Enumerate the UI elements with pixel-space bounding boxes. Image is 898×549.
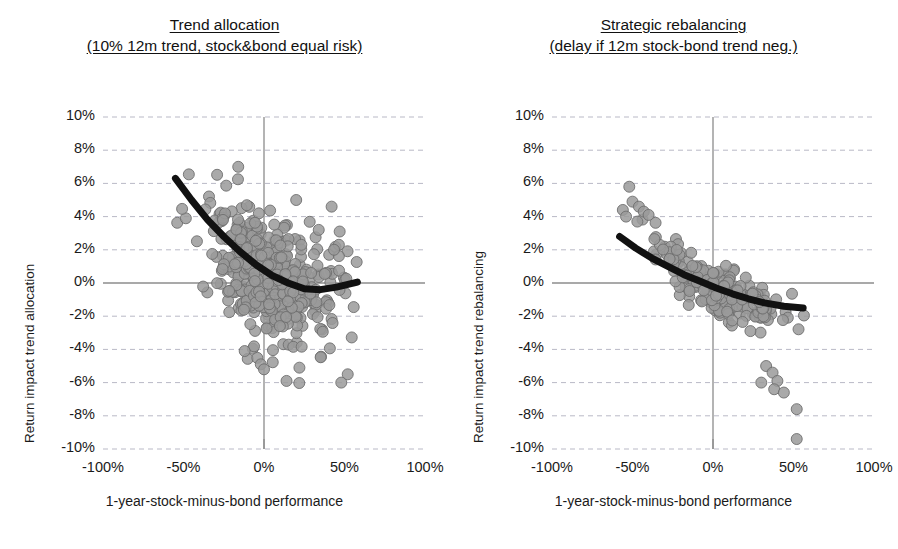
scatter-point bbox=[249, 276, 260, 287]
scatter-point bbox=[791, 404, 802, 415]
chart-panel-trend-allocation: Trend allocation (10% 12m trend, stock&b… bbox=[0, 0, 449, 549]
x-axis-tick-label: -50% bbox=[588, 459, 678, 475]
scatter-point bbox=[683, 299, 694, 310]
x-axis-tick-label: -100% bbox=[58, 459, 148, 475]
scatter-point bbox=[336, 377, 347, 388]
scatter-point bbox=[777, 315, 788, 326]
scatter-point bbox=[324, 300, 335, 311]
scatter-point bbox=[315, 352, 326, 363]
scatter-point bbox=[264, 299, 275, 310]
plot-area-left: 10%8%6%4%2%0%-2%-4%-6%-8%-10%-100%-50%0%… bbox=[0, 0, 449, 549]
x-axis-tick-label: 50% bbox=[749, 459, 839, 475]
scatter-point bbox=[291, 195, 302, 206]
scatter-point bbox=[793, 324, 804, 335]
y-axis-tick-label: -10% bbox=[30, 439, 95, 455]
scatter-point bbox=[327, 318, 338, 329]
scatter-point bbox=[255, 291, 266, 302]
scatter-point bbox=[217, 214, 228, 225]
y-axis-tick-label: 8% bbox=[30, 140, 95, 156]
x-axis-tick-label: -100% bbox=[507, 459, 597, 475]
scatter-point bbox=[238, 304, 249, 315]
y-axis-tick-label: 8% bbox=[479, 140, 544, 156]
y-axis-tick-label: 0% bbox=[30, 273, 95, 289]
scatter-point bbox=[241, 200, 252, 211]
scatter-point bbox=[643, 209, 654, 220]
scatter-point bbox=[269, 219, 280, 230]
y-axis-label: Return impact trend rebalancing bbox=[471, 251, 486, 443]
scatter-point bbox=[326, 201, 337, 212]
y-axis-tick-label: 6% bbox=[30, 173, 95, 189]
scatter-point bbox=[239, 346, 250, 357]
scatter-point bbox=[256, 250, 267, 261]
scatter-point bbox=[281, 375, 292, 386]
figure-root: Trend allocation (10% 12m trend, stock&b… bbox=[0, 0, 898, 549]
scatter-point bbox=[727, 315, 738, 326]
scatter-point bbox=[684, 285, 695, 296]
scatter-point bbox=[232, 174, 243, 185]
y-axis-tick-label: -4% bbox=[30, 339, 95, 355]
scatter-point bbox=[696, 296, 707, 307]
scatter-point bbox=[317, 326, 328, 337]
scatter-point bbox=[624, 181, 635, 192]
plot-area-right: 10%8%6%4%2%0%-2%-4%-6%-8%-10%-100%-50%0%… bbox=[449, 0, 898, 549]
y-axis-tick-label: -10% bbox=[479, 439, 544, 455]
scatter-point bbox=[351, 257, 362, 268]
y-axis-tick-label: 6% bbox=[479, 173, 544, 189]
scatter-point bbox=[798, 310, 809, 321]
y-axis-tick-label: -6% bbox=[479, 373, 544, 389]
scatter-point bbox=[198, 281, 209, 292]
scatter-point bbox=[304, 216, 315, 227]
scatter-point bbox=[346, 332, 357, 343]
scatter-point bbox=[212, 278, 223, 289]
scatter-point bbox=[755, 327, 766, 338]
scatter-point bbox=[671, 244, 682, 255]
x-axis-label: 1-year-stock-minus-bond performance bbox=[0, 493, 449, 509]
x-axis-tick-label: 100% bbox=[829, 459, 898, 475]
y-axis-tick-label: 4% bbox=[479, 207, 544, 223]
scatter-point bbox=[217, 264, 228, 275]
scatter-point bbox=[282, 296, 293, 307]
scatter-point bbox=[250, 235, 261, 246]
y-axis-tick-label: -2% bbox=[479, 306, 544, 322]
scatter-point bbox=[308, 249, 319, 260]
scatter-point bbox=[250, 217, 261, 228]
x-axis-label: 1-year-stock-minus-bond performance bbox=[449, 493, 898, 509]
scatter-point bbox=[787, 288, 798, 299]
y-axis-tick-label: 0% bbox=[479, 273, 544, 289]
y-axis-tick-label: 10% bbox=[30, 107, 95, 123]
scatter-point bbox=[632, 216, 643, 227]
scatter-point bbox=[233, 161, 244, 172]
scatter-point bbox=[319, 268, 330, 279]
scatter-point bbox=[191, 236, 202, 247]
scatter-point bbox=[708, 267, 719, 278]
scatter-point bbox=[621, 211, 632, 222]
x-axis-tick-label: 50% bbox=[300, 459, 390, 475]
scatter-point bbox=[294, 378, 305, 389]
scatter-point bbox=[745, 326, 756, 337]
scatter-point bbox=[267, 345, 278, 356]
scatter-point bbox=[212, 169, 223, 180]
x-axis-tick-label: 0% bbox=[668, 459, 758, 475]
scatter-point bbox=[306, 267, 317, 278]
scatter-point bbox=[296, 341, 307, 352]
scatter-point bbox=[232, 214, 243, 225]
y-axis-tick-label: 2% bbox=[479, 240, 544, 256]
scatter-point bbox=[687, 260, 698, 271]
scatter-point bbox=[324, 343, 335, 354]
y-axis-tick-label: 4% bbox=[30, 207, 95, 223]
scatter-point bbox=[791, 434, 802, 445]
y-axis-tick-label: 10% bbox=[479, 107, 544, 123]
scatter-point bbox=[224, 307, 235, 318]
scatter-point bbox=[649, 234, 660, 245]
y-axis-tick-label: -8% bbox=[479, 406, 544, 422]
scatter-point bbox=[183, 169, 194, 180]
scatter-point bbox=[329, 244, 340, 255]
scatter-point bbox=[177, 203, 188, 214]
y-axis-label: Return impact trend allocation bbox=[22, 264, 37, 443]
y-axis-tick-label: -2% bbox=[30, 306, 95, 322]
scatter-point bbox=[296, 239, 307, 250]
scatter-point bbox=[261, 323, 272, 334]
scatter-point bbox=[263, 278, 274, 289]
scatter-point bbox=[221, 180, 232, 191]
chart-panel-strategic-rebalancing: Strategic rebalancing (delay if 12m stoc… bbox=[449, 0, 898, 549]
